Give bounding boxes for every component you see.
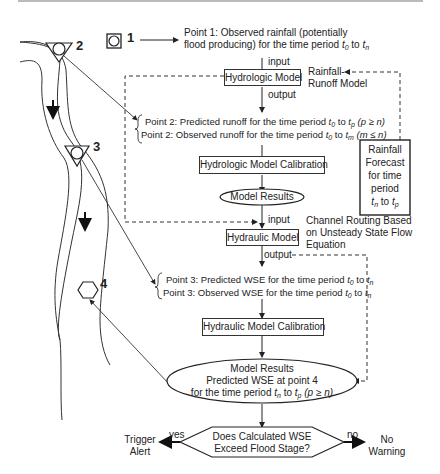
point-3-label: 3 (93, 139, 100, 154)
hydraulic-model-box: Hydraulic Model (226, 229, 299, 246)
no-warning-outcome: No Warning (365, 434, 409, 458)
river (20, 42, 110, 420)
rainfall-runoff-label: Rainfall- Runoff Model (308, 66, 367, 90)
rainfall-forecast-text: Rainfall Forecast for time period tn to … (360, 143, 410, 211)
point3-observed-wse: Point 3: Observed WSE for the time perio… (163, 287, 371, 302)
hydrologic-model-box: Hydrologic Model (224, 69, 301, 86)
forecast-point-icon-point4 (78, 282, 98, 298)
point1-description: Point 1: Observed rainfall (potentially … (184, 27, 344, 54)
stream-gauge-icon-point3 (65, 146, 89, 166)
channel-routing-label: Channel Routing Based on Unsteady State … (306, 215, 412, 251)
hydrologic-calibration-box: Hydrologic Model Calibration (199, 156, 325, 174)
trigger-alert-outcome: Trigger Alert (120, 434, 160, 458)
flood-stage-decision: Does Calculated WSE Exceed Flood Stage? (200, 431, 324, 455)
hydrologic-input-label: input (268, 56, 290, 68)
rain-gauge-icon (107, 34, 121, 48)
point-4-label: 4 (100, 276, 107, 291)
point1-line1: Point 1: Observed rainfall (potentially (184, 27, 344, 39)
model-results-2: Model Results Predicted WSE at point 4 f… (167, 363, 357, 402)
point2-observed-runoff: Point 2: Observed runoff for the time pe… (141, 129, 387, 144)
point-1-label: 1 (127, 30, 134, 45)
hydraulic-output-label: output (264, 249, 292, 261)
no-label: no (347, 429, 358, 441)
point-2-label: 2 (76, 38, 83, 53)
model-results-1: Model Results (220, 191, 304, 203)
yes-label: yes (169, 429, 185, 441)
hydrologic-output-label: output (268, 89, 296, 101)
hydraulic-calibration-box: Hydraulic Model Calibration (202, 318, 324, 336)
hydraulic-input-label: input (268, 214, 290, 226)
point1-line2: flood producing) for the time period t0 … (184, 39, 344, 54)
